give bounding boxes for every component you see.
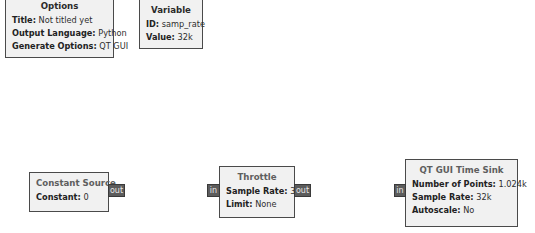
variable-block[interactable]: Variable ID: samp_rate Value: 32k <box>139 0 203 49</box>
time-sink-in-port[interactable]: in <box>394 184 406 197</box>
throttle-block[interactable]: Throttle Sample Rate: 32k Limit: None <box>219 166 295 218</box>
param-autoscale: Autoscale: No <box>412 204 511 217</box>
param-constant: Constant: 0 <box>36 191 102 204</box>
param-limit: Limit: None <box>226 198 288 211</box>
param-sample-rate: Sample Rate: 32k <box>412 191 511 204</box>
qt-gui-time-sink-block[interactable]: QT GUI Time Sink Number of Points: 1.024… <box>405 159 518 227</box>
block-title: Options <box>12 1 107 11</box>
param-output-language: Output Language: Python <box>12 27 107 40</box>
constant-source-out-port[interactable]: out <box>108 184 125 197</box>
block-title: Constant Source <box>36 178 102 188</box>
block-title: Variable <box>146 5 196 15</box>
param-generate-options: Generate Options: QT GUI <box>12 40 107 53</box>
block-title: QT GUI Time Sink <box>412 165 511 175</box>
param-number-of-points: Number of Points: 1.024k <box>412 178 511 191</box>
flowgraph-canvas[interactable]: Options Title: Not titled yet Output Lan… <box>0 0 535 233</box>
block-title: Throttle <box>226 172 288 182</box>
options-block[interactable]: Options Title: Not titled yet Output Lan… <box>5 0 114 58</box>
param-title: Title: Not titled yet <box>12 14 107 27</box>
param-value: Value: 32k <box>146 31 196 44</box>
param-sample-rate: Sample Rate: 32k <box>226 185 288 198</box>
constant-source-block[interactable]: Constant Source Constant: 0 <box>29 172 109 212</box>
param-id: ID: samp_rate <box>146 18 196 31</box>
throttle-out-port[interactable]: out <box>294 184 311 197</box>
throttle-in-port[interactable]: in <box>207 184 220 197</box>
